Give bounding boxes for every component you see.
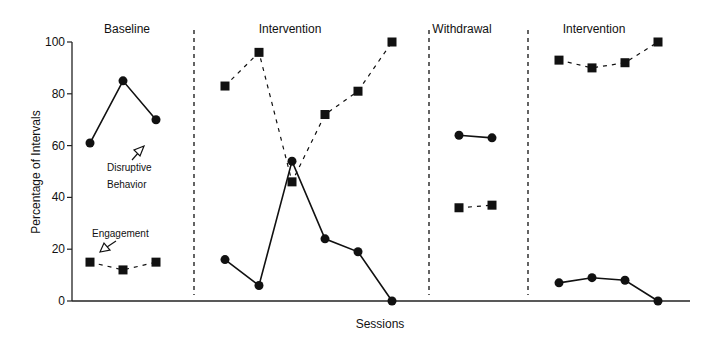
annotation-engagement: Engagement bbox=[92, 228, 149, 239]
series-engagement bbox=[86, 38, 663, 275]
phase-label: Intervention bbox=[563, 22, 626, 36]
square-marker-icon bbox=[321, 110, 330, 119]
circle-marker-icon bbox=[354, 247, 363, 256]
circle-marker-icon bbox=[288, 157, 297, 166]
single-case-design-chart: 020406080100 Percentage of Intervals Ses… bbox=[0, 0, 706, 345]
y-tick-label: 40 bbox=[52, 190, 66, 204]
x-axis-label: Sessions bbox=[356, 317, 405, 331]
phase-labels: BaselineInterventionWithdrawalInterventi… bbox=[104, 22, 625, 36]
annotation-disruptive-line1: Disruptive bbox=[107, 162, 152, 173]
square-marker-icon bbox=[555, 56, 564, 65]
phase-label: Baseline bbox=[104, 22, 150, 36]
axes bbox=[72, 42, 690, 301]
square-marker-icon bbox=[86, 258, 95, 267]
circle-marker-icon bbox=[621, 276, 630, 285]
annotation-disruptive-line2: Behavior bbox=[107, 179, 147, 190]
square-marker-icon bbox=[488, 201, 497, 210]
phase-label: Withdrawal bbox=[432, 22, 491, 36]
circle-marker-icon bbox=[555, 278, 564, 287]
square-marker-icon bbox=[588, 63, 597, 72]
series-disruptive-behavior bbox=[86, 76, 663, 305]
circle-marker-icon bbox=[119, 76, 128, 85]
y-tick-label: 0 bbox=[58, 294, 65, 308]
circle-marker-icon bbox=[654, 297, 663, 306]
y-tick-label: 60 bbox=[52, 139, 66, 153]
square-marker-icon bbox=[621, 58, 630, 67]
square-marker-icon bbox=[152, 258, 161, 267]
square-marker-icon bbox=[119, 265, 128, 274]
phase-label: Intervention bbox=[259, 22, 322, 36]
circle-marker-icon bbox=[488, 133, 497, 142]
circle-marker-icon bbox=[152, 115, 161, 124]
y-tick-label: 100 bbox=[45, 35, 65, 49]
circle-marker-icon bbox=[455, 131, 464, 140]
circle-marker-icon bbox=[221, 255, 230, 264]
square-marker-icon bbox=[455, 203, 464, 212]
circle-marker-icon bbox=[388, 297, 397, 306]
y-axis-ticks: 020406080100 bbox=[45, 35, 72, 308]
circle-marker-icon bbox=[255, 281, 264, 290]
circle-marker-icon bbox=[588, 273, 597, 282]
circle-marker-icon bbox=[86, 139, 95, 148]
arrow-icon bbox=[100, 241, 116, 252]
arrow-icon bbox=[132, 146, 144, 160]
square-marker-icon bbox=[354, 87, 363, 96]
y-tick-label: 80 bbox=[52, 87, 66, 101]
annotations: Disruptive Behavior Engagement bbox=[92, 146, 152, 252]
circle-marker-icon bbox=[321, 234, 330, 243]
square-marker-icon bbox=[255, 48, 264, 57]
square-marker-icon bbox=[654, 38, 663, 47]
square-marker-icon bbox=[221, 82, 230, 91]
data-series bbox=[86, 38, 663, 306]
y-axis-label: Percentage of Intervals bbox=[29, 110, 43, 233]
square-marker-icon bbox=[388, 38, 397, 47]
square-marker-icon bbox=[288, 177, 297, 186]
y-tick-label: 20 bbox=[52, 242, 66, 256]
